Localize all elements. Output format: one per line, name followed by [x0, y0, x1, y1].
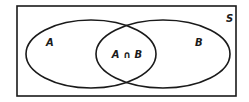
set-a-label: A [45, 37, 54, 48]
intersection-label: A ∩ B [111, 49, 142, 60]
universe-label: S [226, 13, 233, 24]
venn-diagram: S A B A ∩ B [0, 0, 249, 102]
set-b-label: B [195, 37, 203, 48]
